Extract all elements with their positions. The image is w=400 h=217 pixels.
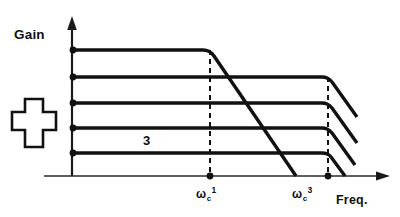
- origin-dot-4: [70, 125, 77, 132]
- curve-1: [72, 50, 296, 176]
- gain-frequency-diagram: [0, 0, 400, 217]
- tick-dot-wc3: [325, 173, 332, 180]
- x-tick-label-wc3: ωc3: [292, 186, 312, 203]
- y-axis-label: Gain: [14, 28, 45, 42]
- x-tick-label-wc1: ωc1: [196, 186, 216, 203]
- x-axis-arrowhead: [376, 171, 390, 180]
- omega-superscript-2: 3: [307, 185, 312, 195]
- curve-3: [72, 103, 357, 143]
- omega-glyph-1: ω: [196, 187, 206, 201]
- origin-dot-3: [70, 100, 77, 107]
- plus-symbol: [12, 99, 56, 147]
- curve-4: [72, 128, 355, 165]
- curve-2: [72, 77, 357, 117]
- figure-root: Gain Freq. 3 ωc1 ωc3: [0, 0, 400, 217]
- omega-glyph-2: ω: [292, 187, 302, 201]
- origin-dot-2: [70, 74, 77, 81]
- curve-5: [72, 153, 345, 176]
- response-curves-group: [72, 50, 357, 176]
- origin-dot-5: [70, 150, 77, 157]
- x-axis-label: Freq.: [336, 194, 368, 207]
- breakpoint-dashed-lines: [210, 50, 328, 176]
- axes-group: [44, 16, 390, 181]
- origin-dot-1: [70, 47, 77, 54]
- omega-superscript-1: 1: [211, 185, 216, 195]
- tick-dot-wc1: [207, 173, 214, 180]
- y-axis-arrowhead: [67, 16, 77, 30]
- series-count-annotation: 3: [143, 134, 150, 147]
